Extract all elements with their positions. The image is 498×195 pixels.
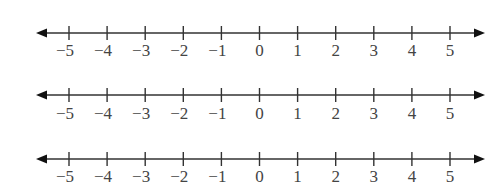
tick-label: −5 xyxy=(56,41,74,60)
number-line: −5−4−3−2−1012345 xyxy=(36,152,485,186)
tick-label: −3 xyxy=(132,104,150,123)
number-line: −5−4−3−2−1012345 xyxy=(36,88,485,123)
tick-label: 5 xyxy=(446,104,455,123)
tick-label: 3 xyxy=(370,41,379,60)
tick-label: −4 xyxy=(94,41,113,60)
tick-label: −3 xyxy=(132,41,150,60)
left-arrow-icon xyxy=(36,91,47,100)
tick-label: 2 xyxy=(331,104,340,123)
tick-label: −2 xyxy=(170,167,188,186)
tick-label: −1 xyxy=(208,41,226,60)
tick-label: 4 xyxy=(408,167,417,186)
tick-label: 5 xyxy=(446,167,455,186)
tick-label: −3 xyxy=(132,167,150,186)
tick-label: 3 xyxy=(370,104,379,123)
tick-label: −2 xyxy=(170,104,188,123)
right-arrow-icon xyxy=(474,155,485,164)
tick-label: 0 xyxy=(255,167,264,186)
tick-label: 0 xyxy=(255,41,264,60)
number-line: −5−4−3−2−1012345 xyxy=(36,26,485,60)
tick-label: 4 xyxy=(408,104,417,123)
tick-label: 4 xyxy=(408,41,417,60)
tick-label: 1 xyxy=(293,167,302,186)
tick-label: −1 xyxy=(208,167,226,186)
tick-label: 2 xyxy=(331,167,340,186)
tick-label: 2 xyxy=(331,41,340,60)
tick-label: 1 xyxy=(293,104,302,123)
tick-label: 3 xyxy=(370,167,379,186)
tick-label: −5 xyxy=(56,167,74,186)
tick-label: −4 xyxy=(94,104,113,123)
left-arrow-icon xyxy=(36,29,47,38)
tick-label: −5 xyxy=(56,104,74,123)
right-arrow-icon xyxy=(474,29,485,38)
tick-label: 1 xyxy=(293,41,302,60)
number-lines-diagram: −5−4−3−2−1012345−5−4−3−2−1012345−5−4−3−2… xyxy=(0,0,498,195)
tick-label: −2 xyxy=(170,41,188,60)
left-arrow-icon xyxy=(36,155,47,164)
tick-label: −4 xyxy=(94,167,113,186)
right-arrow-icon xyxy=(474,91,485,100)
tick-label: 0 xyxy=(255,104,264,123)
tick-label: 5 xyxy=(446,41,455,60)
tick-label: −1 xyxy=(208,104,226,123)
